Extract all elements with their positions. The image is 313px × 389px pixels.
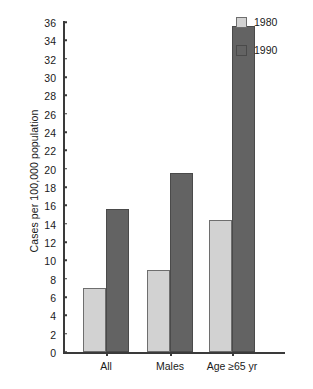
y-tick-mark bbox=[63, 113, 67, 115]
y-tick-10: 10 bbox=[40, 251, 63, 269]
y-tick-36: 36 bbox=[40, 13, 63, 31]
bar-1990-age-65-yr bbox=[232, 26, 255, 352]
y-tick-2: 2 bbox=[40, 325, 63, 343]
x-tick-mark bbox=[170, 352, 172, 356]
y-tick-20: 20 bbox=[40, 160, 63, 178]
y-tick-label: 6 bbox=[40, 292, 63, 304]
y-axis-title: Cases per 100,000 population bbox=[28, 71, 40, 291]
x-tick-mark bbox=[232, 352, 234, 356]
legend-swatch-1980 bbox=[236, 17, 247, 28]
y-tick-mark bbox=[63, 315, 67, 317]
y-tick-4: 4 bbox=[40, 306, 63, 324]
y-tick-label: 14 bbox=[40, 219, 63, 231]
bar-chart-figure: Cases per 100,000 population 36343230282… bbox=[0, 0, 313, 389]
y-tick-mark bbox=[63, 223, 67, 225]
legend-label-1980: 1980 bbox=[254, 16, 277, 28]
chart-legend: 1980 1990 bbox=[236, 16, 277, 72]
y-tick-18: 18 bbox=[40, 178, 63, 196]
y-tick-32: 32 bbox=[40, 50, 63, 68]
y-tick-label: 20 bbox=[40, 164, 63, 176]
y-tick-mark bbox=[63, 131, 67, 133]
y-tick-24: 24 bbox=[40, 123, 63, 141]
legend-label-1990: 1990 bbox=[254, 44, 277, 56]
x-category-label-all: All bbox=[100, 360, 112, 372]
y-tick-label: 12 bbox=[40, 237, 63, 249]
y-tick-mark bbox=[63, 21, 67, 23]
y-tick-6: 6 bbox=[40, 288, 63, 306]
y-tick-label: 18 bbox=[40, 182, 63, 194]
y-tick-22: 22 bbox=[40, 141, 63, 159]
y-tick-label: 24 bbox=[40, 127, 63, 139]
y-tick-mark bbox=[63, 40, 67, 42]
y-tick-label: 34 bbox=[40, 35, 63, 47]
y-tick-8: 8 bbox=[40, 270, 63, 288]
legend-item-1990: 1990 bbox=[236, 44, 277, 56]
y-tick-12: 12 bbox=[40, 233, 63, 251]
y-tick-mark bbox=[63, 186, 67, 188]
y-tick-0: 0 bbox=[40, 343, 63, 361]
y-tick-30: 30 bbox=[40, 68, 63, 86]
y-tick-label: 28 bbox=[40, 90, 63, 102]
y-tick-label: 36 bbox=[40, 17, 63, 29]
y-tick-mark bbox=[63, 278, 67, 280]
y-tick-mark bbox=[63, 205, 67, 207]
bar-1980-age-65-yr bbox=[209, 220, 232, 352]
y-tick-mark bbox=[63, 260, 67, 262]
x-tick-mark bbox=[106, 352, 108, 356]
y-tick-mark bbox=[63, 76, 67, 78]
bar-1990-males bbox=[170, 173, 193, 352]
legend-item-1980: 1980 bbox=[236, 16, 277, 28]
y-tick-label: 30 bbox=[40, 72, 63, 84]
y-tick-label: 22 bbox=[40, 145, 63, 157]
bar-1990-all bbox=[106, 209, 129, 352]
y-tick-label: 10 bbox=[40, 255, 63, 267]
y-tick-label: 32 bbox=[40, 54, 63, 66]
y-tick-34: 34 bbox=[40, 31, 63, 49]
y-tick-mark bbox=[63, 241, 67, 243]
y-tick-28: 28 bbox=[40, 86, 63, 104]
x-category-label-males: Males bbox=[156, 360, 184, 372]
y-tick-label: 2 bbox=[40, 329, 63, 341]
y-tick-mark bbox=[63, 150, 67, 152]
y-tick-mark bbox=[63, 95, 67, 97]
y-tick-mark bbox=[63, 58, 67, 60]
bar-1980-males bbox=[147, 270, 170, 353]
y-tick-16: 16 bbox=[40, 196, 63, 214]
y-tick-label: 0 bbox=[40, 347, 63, 359]
y-tick-14: 14 bbox=[40, 215, 63, 233]
y-tick-mark bbox=[63, 333, 67, 335]
y-tick-label: 16 bbox=[40, 200, 63, 212]
y-tick-mark bbox=[63, 351, 67, 353]
y-tick-26: 26 bbox=[40, 105, 63, 123]
y-tick-mark bbox=[63, 296, 67, 298]
legend-swatch-1990 bbox=[236, 45, 247, 56]
bar-1980-all bbox=[83, 288, 106, 352]
x-category-label-age-65-yr: Age ≥65 yr bbox=[207, 360, 258, 372]
y-tick-mark bbox=[63, 168, 67, 170]
y-tick-label: 26 bbox=[40, 109, 63, 121]
y-tick-label: 8 bbox=[40, 274, 63, 286]
x-axis-line bbox=[63, 352, 285, 354]
y-tick-label: 4 bbox=[40, 310, 63, 322]
